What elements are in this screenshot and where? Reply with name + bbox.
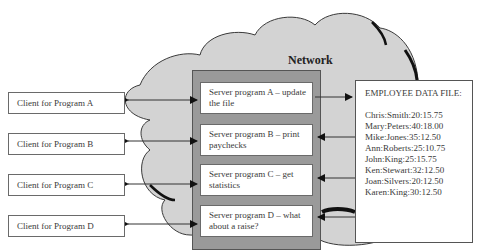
server-b-line2: paychecks (209, 140, 312, 151)
data-record: Joan:Silvers:20:12.50 (365, 176, 472, 187)
server-a-line2: the file (209, 98, 312, 109)
client-b-box: Client for Program B (8, 133, 125, 155)
server-b-box: Server program B – print paychecks (200, 124, 313, 156)
client-d-label: Client for Program D (17, 221, 94, 231)
server-b-line1: Server program B – print (209, 129, 312, 140)
server-d-line1: Server program D – what (209, 210, 312, 221)
client-d-box: Client for Program D (8, 215, 125, 237)
client-c-box: Client for Program C (8, 174, 125, 196)
data-record: Ann:Roberts:25:10.75 (365, 143, 472, 154)
server-c-box: Server program C – get statistics (200, 164, 313, 196)
data-record: Karen:King:30:12.50 (365, 187, 472, 198)
data-file-title: EMPLOYEE DATA FILE: (365, 88, 472, 99)
data-record: Chris:Smith:20:15.75 (365, 110, 472, 121)
client-a-label: Client for Program A (17, 98, 93, 108)
server-d-line2: about a raise? (209, 221, 312, 232)
employee-data-file: EMPLOYEE DATA FILE: Chris:Smith:20:15.75… (355, 80, 473, 243)
data-record: John:King:25:15.75 (365, 154, 472, 165)
client-a-box: Client for Program A (8, 92, 125, 114)
server-d-box: Server program D – what about a raise? (200, 205, 313, 237)
client-c-label: Client for Program C (17, 180, 93, 190)
server-c-line2: statistics (209, 180, 312, 191)
server-c-line1: Server program C – get (209, 169, 312, 180)
data-record: Mike:Jones:35:12.50 (365, 132, 472, 143)
server-a-box: Server program A – update the file (200, 82, 313, 114)
server-a-line1: Server program A – update (209, 87, 312, 98)
client-b-label: Client for Program B (17, 139, 93, 149)
data-record: Mary:Peters:40:18.00 (365, 121, 472, 132)
data-record: Ken:Stewart:32:12.50 (365, 165, 472, 176)
